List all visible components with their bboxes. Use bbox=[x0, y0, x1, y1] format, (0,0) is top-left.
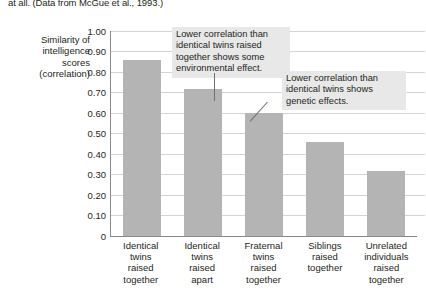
y-axis-title-line: (correlation) bbox=[14, 68, 90, 79]
y-axis-tick-label: 0.30 bbox=[88, 169, 107, 180]
x-axis-tick-label-line: Unrelated bbox=[356, 240, 417, 251]
x-axis-tick-label-line: together bbox=[294, 262, 355, 273]
annotation-line: Lower correlation than bbox=[176, 29, 286, 40]
x-axis-tick-label-line: twins bbox=[110, 251, 171, 262]
y-axis-tick-label: 0.70 bbox=[88, 87, 107, 98]
x-axis-tick-label-line: raised bbox=[171, 262, 232, 273]
x-axis-tick-label-line: together bbox=[233, 274, 294, 285]
y-axis-tick-label: 1.00 bbox=[88, 26, 107, 37]
x-axis-tick-label-line: raised bbox=[356, 262, 417, 273]
bar[interactable] bbox=[245, 113, 283, 236]
annotation-line: genetic effects. bbox=[286, 96, 402, 107]
bar[interactable] bbox=[367, 171, 405, 236]
x-axis-tick-label-line: Siblings bbox=[294, 240, 355, 251]
y-axis-tick-label: 0.40 bbox=[88, 148, 107, 159]
y-axis-tick-label: 0.60 bbox=[88, 107, 107, 118]
y-axis-tick-label: 0 bbox=[101, 230, 106, 241]
figure-caption: at all. (Data from McGue et al., 1993.) bbox=[8, 0, 163, 8]
bar-slot bbox=[356, 31, 417, 236]
x-axis-tick-label-line: Identical bbox=[110, 240, 171, 251]
y-axis-title-line: Similarity of bbox=[14, 34, 90, 45]
x-axis-tick-label-line: twins bbox=[171, 251, 232, 262]
x-axis-tick-label-line: Fraternal bbox=[233, 240, 294, 251]
x-axis-tick-label-line: raised bbox=[294, 251, 355, 262]
x-axis-tick-label-line: together bbox=[356, 274, 417, 285]
y-axis-tick-label: 0.90 bbox=[88, 46, 107, 57]
x-axis-tick-label-line: together bbox=[110, 274, 171, 285]
x-axis-tick-label-line: twins bbox=[233, 251, 294, 262]
annotation-callout: Lower correlation thanidentical twins sh… bbox=[282, 71, 406, 110]
annotation-line: identical twins raised bbox=[176, 40, 286, 51]
y-axis-tick-label: 0.20 bbox=[88, 189, 107, 200]
y-axis-tick-label: 0.80 bbox=[88, 66, 107, 77]
y-axis-title-line: scores bbox=[14, 57, 90, 68]
x-axis-tick-label-line: apart bbox=[171, 274, 232, 285]
y-axis-title: Similarity of intelligence scores (corre… bbox=[14, 34, 90, 80]
x-axis-tick-label-line: raised bbox=[233, 262, 294, 273]
x-axis-tick-label: Fraternaltwinsraisedtogether bbox=[233, 240, 294, 285]
bar-slot bbox=[295, 31, 356, 236]
bar[interactable] bbox=[306, 142, 344, 236]
x-axis-tick-label-line: Identical bbox=[171, 240, 232, 251]
bar-slot bbox=[111, 31, 172, 236]
x-axis-tick-label-line: individuals bbox=[356, 251, 417, 262]
y-axis-tick-label: 0.50 bbox=[88, 128, 107, 139]
bar[interactable] bbox=[123, 60, 161, 236]
x-axis-tick-label: Unrelatedindividualsraisedtogether bbox=[356, 240, 417, 285]
x-axis-tick-label-line: raised bbox=[110, 262, 171, 273]
annotation-line: environmental effect. bbox=[176, 63, 286, 74]
annotation-callout: Lower correlation thanidentical twins ra… bbox=[172, 27, 290, 78]
x-axis-tick-label: Identicaltwinsraisedtogether bbox=[110, 240, 171, 285]
annotation-line: identical twins shows bbox=[286, 84, 402, 95]
y-axis-tick-label: 0.10 bbox=[88, 210, 107, 221]
bar[interactable] bbox=[184, 89, 222, 236]
x-axis-labels: IdenticaltwinsraisedtogetherIdenticaltwi… bbox=[110, 240, 417, 285]
annotation-leader-line bbox=[214, 73, 215, 101]
annotation-line: Lower correlation than bbox=[286, 73, 402, 84]
x-axis-tick-label: Identicaltwinsraisedapart bbox=[171, 240, 232, 285]
y-axis-title-line: intelligence bbox=[14, 45, 90, 56]
annotation-line: together shows some bbox=[176, 52, 286, 63]
x-axis-tick-label: Siblingsraisedtogether bbox=[294, 240, 355, 285]
